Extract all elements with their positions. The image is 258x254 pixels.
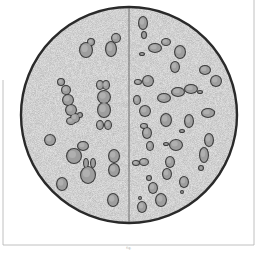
figure-caption: fig. bbox=[0, 246, 258, 250]
yeast-cell bbox=[201, 108, 215, 118]
figure: fig. bbox=[0, 0, 258, 254]
yeast-cell bbox=[107, 193, 119, 207]
yeast-cell bbox=[44, 134, 56, 146]
yeast-cell bbox=[56, 177, 68, 191]
yeast-illustration bbox=[0, 0, 258, 254]
yeast-cell bbox=[160, 113, 172, 127]
